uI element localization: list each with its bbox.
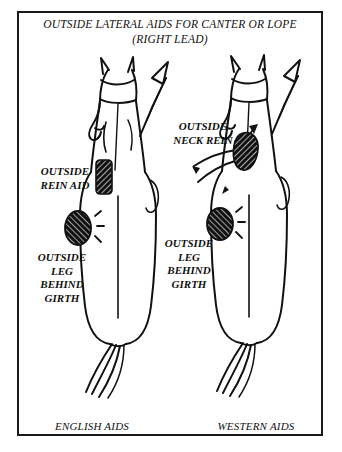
label-outside-neck-rein: OUTSIDE NECK REIN (160, 120, 246, 147)
label-outside-leg-behind-girth-western: OUTSIDE LEG BEHIND GIRTH (147, 237, 231, 291)
caption-english-aids: ENGLISH AIDS (34, 420, 150, 432)
figure-title-line-1: OUTSIDE LATERAL AIDS FOR CANTER OR LOPE (19, 17, 321, 32)
equestrian-aids-figure: OUTSIDE LATERAL AIDS FOR CANTER OR LOPE … (0, 0, 342, 452)
figure-border (17, 11, 323, 436)
label-outside-leg-behind-girth-english: OUTSIDE LEG BEHIND GIRTH (20, 251, 104, 305)
label-outside-rein-aid: OUTSIDE REIN AID (22, 165, 108, 192)
figure-title-line-2: (RIGHT LEAD) (19, 32, 321, 47)
figure-title: OUTSIDE LATERAL AIDS FOR CANTER OR LOPE … (19, 17, 321, 47)
caption-western-aids: WESTERN AIDS (198, 420, 314, 432)
